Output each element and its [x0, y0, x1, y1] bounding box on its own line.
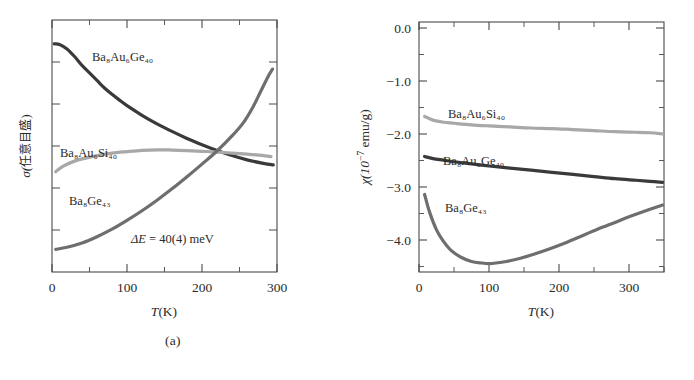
curve-label-a-ge43: Ba₈Ge₄₃ [69, 194, 111, 208]
y-axis-close-a: ) [18, 114, 33, 119]
x-axis-unit-a: (K) [158, 304, 177, 319]
y-tick-label-b-1: −1.0 [387, 74, 412, 89]
panel-b: 0.0 −1.0 −2.0 −3.0 −4.0 0 100 200 300 T(… [347, 0, 694, 380]
plot-frame-b [419, 22, 664, 272]
y-axis-jp-a: 任意目盛 [18, 119, 33, 167]
svg-text:σ(任意目盛): σ(任意目盛) [18, 114, 33, 178]
y-axis-unit-b: emu/g) [357, 109, 372, 151]
curve-label-b-ge43: Ba₈Ge₄₃ [445, 201, 487, 215]
x-tick-label-a-200: 200 [192, 280, 213, 295]
curve-label-a-ausi: Ba₈Au₆Si₄₀ [60, 146, 117, 160]
x-minor-ticks-b [454, 22, 664, 272]
x-tick-label-a-0: 0 [49, 280, 56, 295]
x-axis-unit-b: (K) [535, 304, 554, 319]
curve-label-b-auge: Ba₈Au₆Ge₄₀ [443, 154, 504, 168]
y-axis-title-a: σ(任意目盛) [18, 114, 33, 178]
y-tick-label-b-3: −3.0 [387, 180, 412, 195]
curve-label-b-ausi: Ba₈Au₆Si₄₀ [448, 107, 505, 121]
curve-label-a-auge: Ba₈Au₆Ge₄₀ [92, 50, 153, 64]
x-tick-label-b-300: 300 [619, 280, 640, 295]
x-tick-label-a-300: 300 [267, 280, 288, 295]
panel-a: 0 100 200 300 T(K) σ(任意目盛) Ba₈Au₆Ge₄₀ Ba… [0, 0, 347, 380]
y-tick-label-b-2: −2.0 [387, 127, 412, 142]
x-tick-label-b-100: 100 [479, 280, 500, 295]
x-axis-title-a: T(K) [151, 304, 177, 319]
y-axis-exp-b: −7 [356, 151, 366, 161]
activation-energy-annotation: ΔE = 40(4) meV [130, 232, 214, 246]
svg-text:χ(10−7 emu/g): χ(10−7 emu/g) [356, 109, 372, 187]
figure-container: 0 100 200 300 T(K) σ(任意目盛) Ba₈Au₆Ge₄₀ Ba… [0, 0, 694, 380]
x-tick-label-a-100: 100 [117, 280, 138, 295]
x-major-ticks-b [419, 22, 629, 272]
y-axis-chi-b: χ(10 [357, 161, 372, 187]
panel-b-plot: 0.0 −1.0 −2.0 −3.0 −4.0 0 100 200 300 T(… [347, 0, 694, 330]
x-tick-label-b-0: 0 [416, 280, 423, 295]
x-tick-label-b-200: 200 [549, 280, 570, 295]
panel-caption-a: (a) [165, 333, 181, 349]
y-tick-label-b-0: 0.0 [394, 21, 411, 36]
curves-b [425, 116, 663, 263]
x-axis-title-b: T(K) [528, 304, 554, 319]
y-axis-title-b: χ(10−7 emu/g) [356, 109, 372, 187]
panel-a-plot: 0 100 200 300 T(K) σ(任意目盛) Ba₈Au₆Ge₄₀ Ba… [0, 0, 347, 330]
y-tick-label-b-4: −4.0 [387, 233, 412, 248]
